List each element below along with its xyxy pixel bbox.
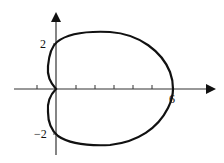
x-label-6: 6 [169,92,175,106]
y-label-2: 2 [40,37,46,51]
y-label-neg2: −2 [34,127,47,141]
polar-graph: 2 −2 6 [0,0,224,163]
